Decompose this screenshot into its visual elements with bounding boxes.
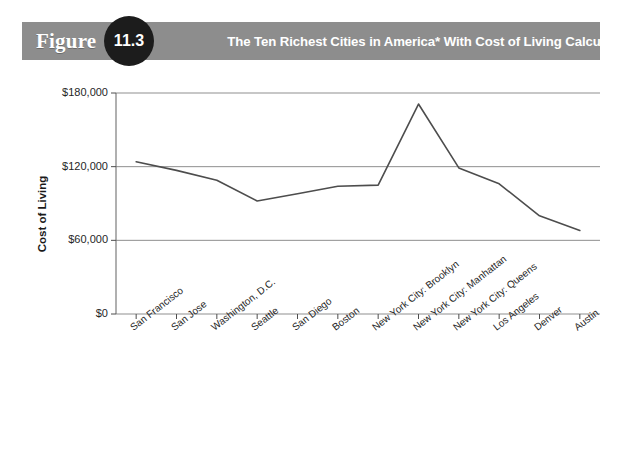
y-axis-tick-label: $60,000 [68,233,108,245]
figure-header-bar: Figure 11.3 The Ten Richest Cities in Am… [22,22,600,60]
figure-number-badge: 11.3 [104,16,154,66]
figure-word-label: Figure [36,29,96,54]
figure-title: The Ten Richest Cities in America* With … [227,34,628,49]
cost-of-living-line [136,104,580,230]
y-axis-tick-label: $0 [96,307,108,319]
chart-container: Cost of Living $0$60,000$120,000$180,000… [0,60,628,468]
y-axis-tick-label: $120,000 [62,160,108,172]
y-axis-title: Cost of Living [36,154,48,274]
y-axis-tick-label: $180,000 [62,86,108,98]
figure-number-label: 11.3 [114,32,144,50]
gridlines-group [116,93,600,314]
